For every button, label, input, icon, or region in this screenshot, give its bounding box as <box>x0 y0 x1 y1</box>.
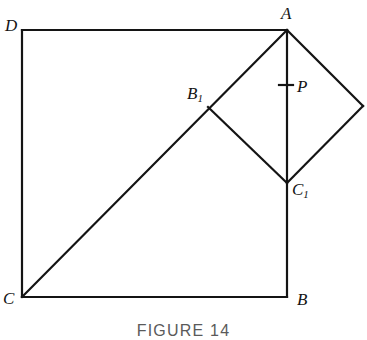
vertex-label-c1-letter: C <box>292 180 303 199</box>
vertex-label-b: B <box>297 291 307 308</box>
vertex-label-c1: C1 <box>292 181 309 198</box>
vertex-label-b1: B1 <box>187 85 203 102</box>
vertex-label-d: D <box>5 17 17 34</box>
figure-container: A B C D P B1 C1 FIGURE 14 <box>0 0 367 340</box>
segment-R-C1 <box>287 106 363 183</box>
vertex-label-b1-subscript: 1 <box>197 92 203 104</box>
vertex-label-c: C <box>3 290 14 307</box>
segment-CA-diagonal <box>22 30 287 297</box>
geometry-diagram <box>0 0 367 340</box>
vertex-label-b1-letter: B <box>187 84 197 103</box>
segment-B1-C1 <box>208 107 287 183</box>
figure-caption: FIGURE 14 <box>0 322 367 340</box>
point-label-p: P <box>297 78 307 95</box>
vertex-label-c1-subscript: 1 <box>303 188 309 200</box>
vertex-label-a: A <box>281 5 291 22</box>
